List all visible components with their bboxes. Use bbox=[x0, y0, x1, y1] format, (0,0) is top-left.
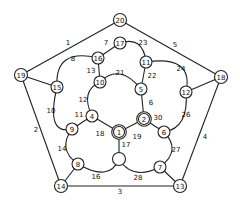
edge-label: 30 bbox=[154, 114, 163, 122]
edge-label: 4 bbox=[203, 133, 208, 141]
node-label: 13 bbox=[176, 183, 185, 191]
edge-20-19 bbox=[21, 20, 120, 75]
graph-node: 2 bbox=[137, 112, 152, 127]
node-label: 19 bbox=[17, 72, 26, 80]
graph-node: 12 bbox=[180, 86, 192, 98]
nodes-layer: 201918141317161115121054912687 bbox=[15, 14, 228, 193]
edge-labels-layer: 1524372382413222110126263011181917142716… bbox=[34, 39, 208, 196]
node-label: 7 bbox=[158, 164, 162, 172]
edge-label: 8 bbox=[71, 55, 75, 63]
node-label: 5 bbox=[139, 86, 143, 94]
graph-node: 4 bbox=[86, 110, 98, 122]
edge-label: 10 bbox=[47, 107, 56, 115]
edge-label: 11 bbox=[75, 111, 84, 119]
edge-label: 1 bbox=[66, 39, 70, 47]
node-label: 10 bbox=[96, 79, 105, 87]
edge-label: 23 bbox=[139, 39, 148, 47]
graph-node: 11 bbox=[140, 56, 152, 68]
edge-label: 17 bbox=[122, 141, 131, 149]
node-label: 20 bbox=[116, 17, 125, 25]
graph-node: 17 bbox=[114, 37, 126, 49]
node-label: 11 bbox=[142, 59, 151, 67]
node-label: 6 bbox=[162, 129, 167, 137]
graph-node: 1 bbox=[112, 125, 127, 140]
node-label: 4 bbox=[90, 113, 95, 121]
node-label: 9 bbox=[70, 126, 74, 134]
edge-label: 5 bbox=[173, 41, 177, 49]
graph-node: 5 bbox=[135, 83, 147, 95]
node-label: 18 bbox=[217, 74, 226, 82]
node-label: 8 bbox=[76, 161, 80, 169]
edge-label: 14 bbox=[58, 145, 67, 153]
edge-label: 28 bbox=[134, 174, 143, 182]
edge-label: 27 bbox=[172, 146, 181, 154]
edge-label: 21 bbox=[116, 69, 125, 77]
node-circle bbox=[113, 153, 126, 166]
graph-node: 8 bbox=[72, 158, 84, 170]
graph-node: 9 bbox=[66, 123, 78, 135]
graph-node: 7 bbox=[154, 161, 166, 173]
graph-node: 6 bbox=[158, 126, 170, 138]
edge-label: 2 bbox=[34, 126, 38, 134]
node-label: 16 bbox=[94, 55, 103, 63]
edge-label: 24 bbox=[177, 65, 186, 73]
graph-node bbox=[113, 153, 126, 166]
node-label: 15 bbox=[53, 84, 62, 92]
graph-node: 13 bbox=[174, 180, 187, 193]
node-label: 14 bbox=[57, 183, 66, 191]
graph-node: 16 bbox=[92, 52, 104, 64]
edge-label: 19 bbox=[133, 133, 142, 141]
graph-node: 10 bbox=[94, 76, 106, 88]
edge-20-18 bbox=[120, 20, 221, 77]
edge-label: 18 bbox=[96, 130, 105, 138]
edge-label: 7 bbox=[104, 39, 108, 47]
node-label: 2 bbox=[142, 116, 146, 124]
edge-label: 12 bbox=[79, 96, 88, 104]
node-label: 1 bbox=[117, 129, 121, 137]
edge-label: 6 bbox=[149, 99, 154, 107]
graph-node: 18 bbox=[215, 71, 228, 84]
edge-label: 16 bbox=[92, 173, 101, 181]
edge-label: 26 bbox=[182, 111, 191, 119]
graph-node: 20 bbox=[114, 14, 127, 27]
graph-node: 15 bbox=[51, 81, 63, 93]
graph-node: 19 bbox=[15, 69, 28, 82]
node-label: 12 bbox=[182, 89, 191, 97]
edge-label: 22 bbox=[148, 72, 157, 80]
graph-node: 14 bbox=[55, 180, 68, 193]
edge-label: 3 bbox=[118, 188, 122, 196]
graph-diagram: 1524372382413222110126263011181917142716… bbox=[0, 0, 240, 207]
edge-label: 13 bbox=[87, 67, 96, 75]
node-label: 17 bbox=[116, 40, 125, 48]
